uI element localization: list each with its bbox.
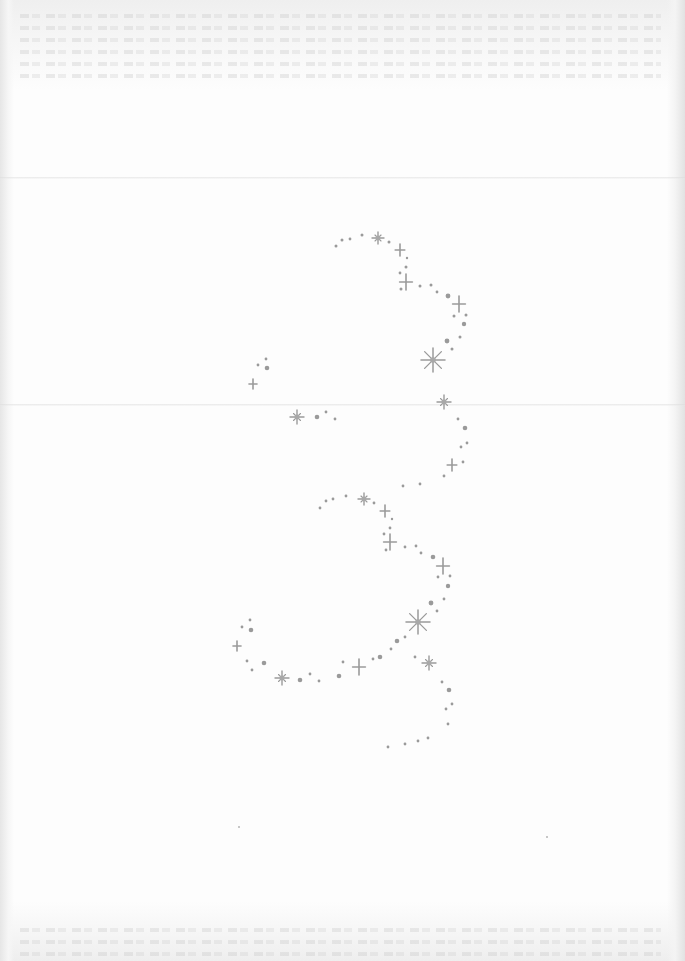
four-point-star-icon bbox=[437, 558, 450, 574]
sparkle-dot-icon bbox=[430, 284, 433, 287]
sparkle-dot-icon bbox=[265, 358, 268, 361]
sparkle-dot-icon bbox=[446, 294, 451, 299]
sparkle-dot-icon bbox=[429, 601, 434, 606]
sparkle-dot-icon bbox=[417, 740, 420, 743]
sparkle-dot-icon bbox=[373, 502, 376, 505]
sparkle-dot-icon bbox=[441, 681, 444, 684]
four-point-star-icon bbox=[447, 459, 457, 471]
sparkle-dot-icon bbox=[251, 669, 254, 672]
sparkle-dot-icon bbox=[463, 426, 468, 431]
sparkle-dot-icon bbox=[414, 656, 417, 659]
sparkle-dot-icon bbox=[395, 639, 400, 644]
four-point-star-icon bbox=[380, 505, 390, 517]
ornament-dots bbox=[241, 234, 469, 749]
sparkle-dot-icon bbox=[400, 288, 403, 291]
starburst-icon bbox=[358, 493, 370, 505]
sparkle-dot-icon bbox=[431, 555, 436, 560]
four-point-star-icon bbox=[395, 244, 405, 256]
four-point-star-icon bbox=[353, 659, 366, 675]
sparkle-dot-icon bbox=[436, 610, 439, 613]
sparkle-dot-icon bbox=[445, 339, 450, 344]
sparkle-dot-icon bbox=[447, 688, 452, 693]
sparkle-dot-icon bbox=[462, 322, 466, 326]
sparkle-dot-icon bbox=[265, 366, 270, 371]
sparkle-dot-icon bbox=[446, 584, 450, 588]
sparkle-dot-icon bbox=[402, 485, 405, 488]
sparkle-dot-icon bbox=[325, 411, 328, 414]
sparkle-dot-icon bbox=[337, 674, 342, 679]
sparkle-dot-icon bbox=[404, 636, 407, 639]
four-point-star-icon bbox=[233, 641, 241, 651]
sparkle-dot-icon bbox=[451, 348, 454, 351]
sparkle-dot-icon bbox=[388, 241, 391, 244]
sparkle-dot-icon bbox=[378, 655, 383, 660]
sparkle-dot-icon bbox=[437, 576, 440, 579]
sparkle-dot-icon bbox=[399, 272, 402, 275]
starburst-icon bbox=[290, 410, 304, 424]
sparkle-dot-icon bbox=[453, 315, 456, 318]
sparkle-dot-icon bbox=[345, 495, 348, 498]
sparkle-dot-icon bbox=[457, 418, 460, 421]
sparkle-dot-icon bbox=[325, 500, 328, 503]
sparkle-dot-icon bbox=[460, 446, 463, 449]
sparkle-dot-icon bbox=[436, 291, 439, 294]
sparkle-dot-icon bbox=[241, 626, 244, 629]
sparkle-dot-icon bbox=[387, 746, 390, 749]
sparkle-dot-icon bbox=[309, 673, 312, 676]
sparkle-dot-icon bbox=[459, 336, 462, 339]
sparkle-dot-icon bbox=[318, 680, 321, 683]
sparkle-dot-icon bbox=[319, 507, 322, 510]
sparkle-dot-icon bbox=[445, 708, 448, 711]
sparkle-dot-icon bbox=[427, 737, 430, 740]
sparkle-swirl-ornament bbox=[0, 0, 685, 961]
sparkle-dot-icon bbox=[342, 661, 345, 664]
sparkle-dot-icon bbox=[335, 245, 338, 248]
sparkle-dot-icon bbox=[334, 418, 337, 421]
sparkle-dot-icon bbox=[390, 648, 393, 651]
sparkle-dot-icon bbox=[385, 549, 388, 552]
sparkle-dot-icon bbox=[462, 461, 465, 464]
starburst-icon bbox=[421, 348, 445, 372]
four-point-star-icon bbox=[249, 379, 257, 389]
sparkle-dot-icon bbox=[349, 238, 352, 241]
sparkle-dot-icon bbox=[383, 533, 386, 536]
sparkle-dot-icon bbox=[249, 628, 254, 633]
sparkle-dot-icon bbox=[419, 483, 422, 486]
starburst-icon bbox=[422, 656, 436, 670]
sparkle-dot-icon bbox=[443, 475, 446, 478]
sparkle-dot-icon bbox=[404, 546, 407, 549]
sparkle-dot-icon bbox=[404, 743, 407, 746]
sparkle-dot-icon bbox=[405, 266, 408, 269]
starburst-icon bbox=[406, 610, 430, 634]
sparkle-dot-icon bbox=[249, 619, 252, 622]
four-point-star-icon bbox=[384, 534, 397, 550]
sparkle-dot-icon bbox=[391, 518, 393, 520]
sparkle-dot-icon bbox=[298, 678, 303, 683]
sparkle-dot-icon bbox=[449, 575, 452, 578]
sparkle-dot-icon bbox=[451, 703, 454, 706]
sparkle-dot-icon bbox=[415, 545, 418, 548]
scanned-page bbox=[0, 0, 685, 961]
sparkle-dot-icon bbox=[332, 498, 335, 501]
sparkle-dot-icon bbox=[372, 658, 375, 661]
sparkle-dot-icon bbox=[447, 723, 450, 726]
sparkle-dot-icon bbox=[419, 285, 422, 288]
sparkle-dot-icon bbox=[262, 661, 267, 666]
starburst-icon bbox=[372, 232, 384, 244]
ornament-stars bbox=[233, 232, 465, 685]
starburst-icon bbox=[275, 671, 289, 685]
sparkle-dot-icon bbox=[341, 239, 344, 242]
sparkle-dot-icon bbox=[466, 442, 469, 445]
sparkle-dot-icon bbox=[246, 660, 249, 663]
sparkle-dot-icon bbox=[315, 415, 320, 420]
sparkle-dot-icon bbox=[361, 234, 364, 237]
sparkle-dot-icon bbox=[406, 257, 408, 259]
sparkle-dot-icon bbox=[389, 527, 392, 530]
sparkle-dot-icon bbox=[465, 314, 468, 317]
starburst-icon bbox=[437, 395, 451, 409]
sparkle-dot-icon bbox=[443, 598, 446, 601]
sparkle-dot-icon bbox=[257, 364, 260, 367]
sparkle-dot-icon bbox=[420, 552, 423, 555]
four-point-star-icon bbox=[453, 296, 466, 312]
